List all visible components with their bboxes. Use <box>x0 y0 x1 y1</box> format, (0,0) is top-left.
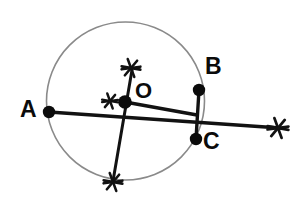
point-label-O: O <box>135 80 152 102</box>
point-label-A: A <box>20 98 37 121</box>
construction-diagram-svg <box>0 0 308 202</box>
point-B-dot <box>193 84 205 96</box>
point-label-B: B <box>205 55 222 78</box>
point-A-dot <box>43 106 55 118</box>
point-label-C: C <box>203 130 220 153</box>
point-C-dot <box>190 133 202 145</box>
point-O-dot <box>118 95 132 109</box>
